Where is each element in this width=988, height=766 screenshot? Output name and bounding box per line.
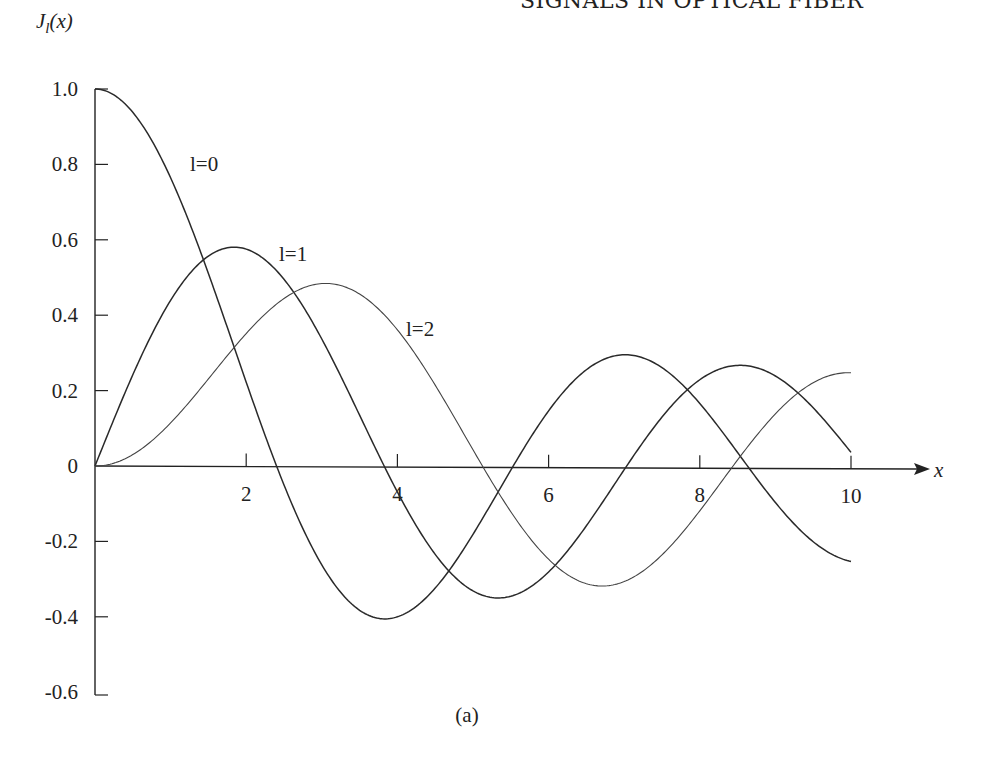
x-tick-label: 6 <box>543 483 554 507</box>
curve-l-1 <box>95 247 851 598</box>
y-tick-label: -0.2 <box>45 529 78 553</box>
figure-caption: (a) <box>455 703 478 727</box>
y-tick-label: 0 <box>68 454 79 478</box>
y-ticks: 1.00.80.60.40.20-0.2-0.4-0.6 <box>45 77 108 704</box>
y-tick-label: 0.4 <box>52 303 79 327</box>
y-tick-label: -0.6 <box>45 680 78 704</box>
x-tick-label: 10 <box>841 484 862 508</box>
y-axis-title: Jl(x) <box>36 9 73 36</box>
y-tick-label: -0.4 <box>45 605 79 629</box>
bessel-chart: 1.00.80.60.40.20-0.2-0.4-0.6 246810 l=0l… <box>0 0 988 766</box>
y-axis <box>95 89 108 695</box>
curve-labels: l=0l=1l=2 <box>190 152 434 341</box>
x-axis-title: x <box>933 458 944 482</box>
x-tick-label: 2 <box>241 482 252 506</box>
curve-label: l=1 <box>279 242 307 266</box>
curve-label: l=2 <box>406 317 434 341</box>
y-tick-label: 0.6 <box>52 228 78 252</box>
x-tick-label: 8 <box>695 483 706 507</box>
x-ticks: 246810 <box>241 454 862 508</box>
y-tick-label: 0.2 <box>52 379 78 403</box>
curve-label: l=0 <box>190 152 218 176</box>
y-tick-label: 1.0 <box>52 77 78 101</box>
x-axis <box>95 463 930 475</box>
curve-l-2 <box>95 283 851 586</box>
y-tick-label: 0.8 <box>52 152 78 176</box>
